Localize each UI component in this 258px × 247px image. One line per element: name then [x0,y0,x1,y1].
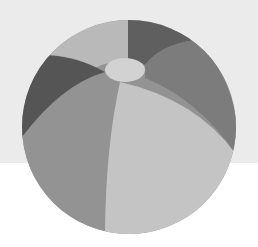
beach-ball-icon [0,0,258,247]
